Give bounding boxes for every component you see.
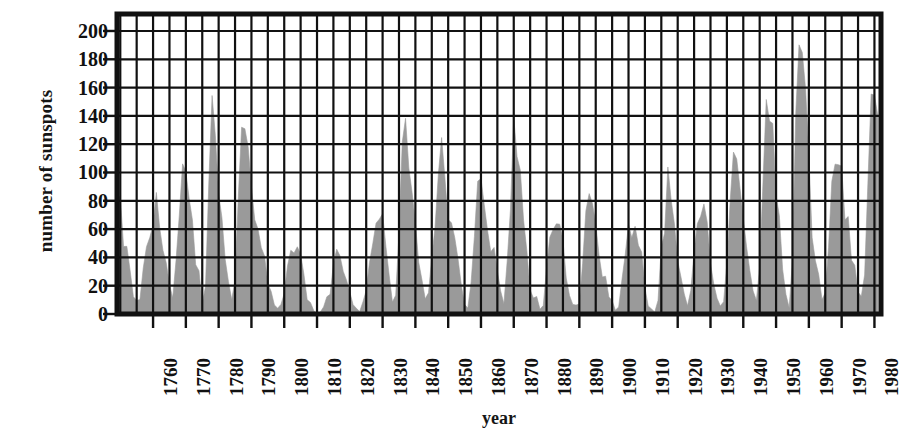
x-tick-label: 1880 <box>555 358 574 396</box>
x-tick-label: 1950 <box>784 358 803 396</box>
x-tick-label: 1820 <box>358 358 377 396</box>
x-tick-label: 1870 <box>522 358 541 396</box>
x-tick-label: 1790 <box>259 358 278 396</box>
x-tick-label: 1960 <box>817 358 836 396</box>
x-tick-label: 1830 <box>391 358 410 396</box>
x-tick-label: 1970 <box>850 358 869 396</box>
x-axis-tick-marks <box>153 316 874 328</box>
x-tick-label: 1900 <box>620 358 639 396</box>
x-tick-label: 1810 <box>325 358 344 396</box>
x-tick-label: 1840 <box>423 358 442 396</box>
x-tick-label: 1980 <box>882 358 901 396</box>
x-tick-label: 1850 <box>456 358 475 396</box>
x-tick-label: 1930 <box>718 358 737 396</box>
x-tick-label: 1910 <box>653 358 672 396</box>
x-tick-label: 1890 <box>587 358 606 396</box>
x-tick-label: 1940 <box>751 358 770 396</box>
y-axis-tick-marks <box>103 31 116 314</box>
x-tick-label: 1770 <box>194 358 213 396</box>
x-tick-label: 1800 <box>292 358 311 396</box>
x-tick-label: 1780 <box>227 358 246 396</box>
x-tick-label: 1860 <box>489 358 508 396</box>
x-tick-label: 1920 <box>686 358 705 396</box>
x-axis-title: year <box>117 408 881 429</box>
x-tick-label: 1760 <box>161 358 180 396</box>
